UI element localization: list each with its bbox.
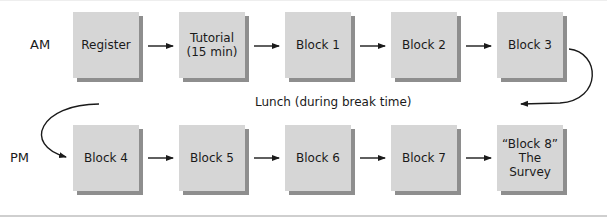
curved-arrow-icon bbox=[42, 104, 99, 157]
curved-arrow-icon bbox=[521, 49, 592, 104]
bottom-rule bbox=[0, 215, 607, 217]
flow-arrows bbox=[0, 0, 607, 218]
